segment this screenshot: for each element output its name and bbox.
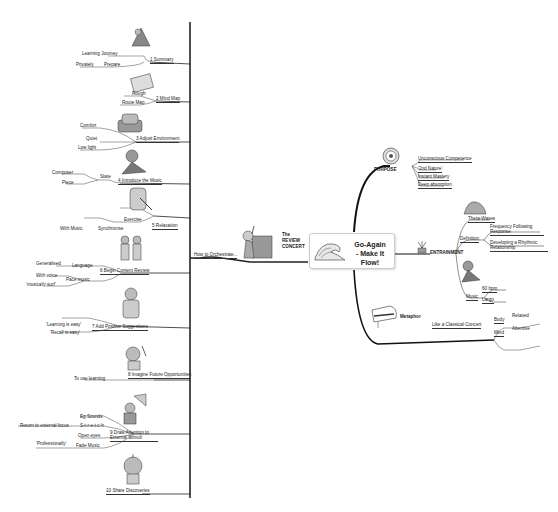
- musically-surf[interactable]: 'musically surf': [26, 282, 56, 287]
- dreaming-figure-icon: [120, 342, 150, 372]
- step-4-introduce-music[interactable]: 4 Introduce the Music: [118, 178, 162, 185]
- frequency-following-response[interactable]: Frequency Following Response: [490, 224, 544, 236]
- definition[interactable]: Definition: [460, 236, 479, 243]
- pace-music[interactable]: Pace music: [66, 277, 90, 282]
- return-to-external-focus[interactable]: Return to external focus: [20, 423, 69, 428]
- with-music[interactable]: With Music: [60, 226, 82, 231]
- composer[interactable]: Composer: [52, 170, 73, 175]
- review-concert-line1: The: [282, 232, 290, 237]
- music[interactable]: Music: [466, 294, 478, 301]
- conductor-icon: [238, 222, 280, 262]
- plant-icon: [414, 240, 430, 254]
- step-3-adjust-environment[interactable]: 3 Adjust Environment: [136, 136, 179, 143]
- mind[interactable]: Mind: [494, 330, 504, 337]
- professionally[interactable]: 'Professionally': [36, 441, 66, 446]
- privately[interactable]: Privately: [76, 62, 94, 67]
- like-classical-concert[interactable]: Like a Classical Concert: [432, 322, 481, 329]
- to-use-learning[interactable]: To use learning: [74, 376, 105, 381]
- waves-icon: [462, 198, 488, 216]
- armchair-icon: [114, 112, 146, 136]
- unconscious-competence[interactable]: Unconscious Competence: [418, 156, 472, 163]
- attentive[interactable]: Attentive: [512, 326, 530, 331]
- musician-icon: [118, 148, 152, 178]
- central-title-line2: - Make It Flow!: [356, 250, 384, 266]
- largo[interactable]: Largo: [482, 297, 494, 304]
- second-nature[interactable]: '2nd Nature': [418, 166, 442, 173]
- piano-icon: [370, 304, 400, 330]
- summary-icon: [128, 24, 154, 50]
- cheering-figure-icon: [116, 286, 146, 320]
- eg-sounds[interactable]: Eg Sounds: [80, 414, 102, 419]
- language[interactable]: Language: [72, 263, 92, 268]
- target-icon: [380, 146, 402, 166]
- low-light[interactable]: Low light: [78, 145, 96, 150]
- recall-is-easy[interactable]: 'Recall is easy': [50, 330, 80, 335]
- central-topic[interactable]: Go-Again- Make It Flow!: [309, 233, 395, 269]
- fade-music[interactable]: Fade Music: [76, 443, 100, 448]
- generalised[interactable]: Generalised: [36, 261, 61, 266]
- learning-journey[interactable]: Learning Journey: [82, 51, 118, 56]
- dancing-pair-icon: [116, 232, 146, 264]
- instant-mastery[interactable]: Instant Mastery: [418, 174, 449, 181]
- open-eyes[interactable]: Open eyes: [78, 433, 100, 438]
- wave-icon: [313, 238, 349, 264]
- step-7-add-positive-suggestions[interactable]: 7 Add Positive Suggestions: [92, 324, 148, 331]
- purpose-topic[interactable]: PURPOSE: [374, 167, 396, 172]
- step-1-summary[interactable]: 1 Summary: [150, 57, 174, 64]
- quiet[interactable]: Quiet: [86, 136, 97, 141]
- how-to-orchestrate-topic[interactable]: How to Orchestrate...: [194, 252, 237, 259]
- route-map[interactable]: Route Map: [122, 100, 144, 105]
- piece[interactable]: Piece: [62, 180, 74, 185]
- step-2-mind-map[interactable]: 2 Mind Map: [156, 96, 180, 103]
- megaphone-figure-icon: [118, 392, 150, 426]
- with-voice[interactable]: With voice: [36, 273, 57, 278]
- learning-is-easy[interactable]: 'Learning is easy': [46, 322, 81, 327]
- prepare[interactable]: Prepare: [104, 62, 120, 67]
- step-6-begin-content-review[interactable]: 6 Begin Content Review: [100, 268, 149, 275]
- step-10-share-discoveries[interactable]: 10 Share Discoveries: [106, 488, 150, 495]
- entrainment-topic[interactable]: ENTRAINMENT: [430, 250, 463, 255]
- theta-waves[interactable]: Theta-Waves: [468, 216, 495, 223]
- exercise[interactable]: Exercise: [124, 217, 142, 222]
- step-5-relaxation[interactable]: 5 Relaxation: [152, 223, 178, 230]
- review-concert-line3: CONCERT: [282, 244, 305, 249]
- review-concert-line2: REVIEW: [282, 238, 300, 243]
- stretch[interactable]: S-t-r-e-t-c-h: [80, 423, 104, 428]
- step-8-imagine-future[interactable]: 8 Imagine Future Opportunities: [128, 372, 191, 379]
- relaxing-figure-icon: [126, 184, 156, 214]
- synchronise[interactable]: Synchronise: [98, 226, 123, 231]
- sixty-bpm[interactable]: 60 bpm: [482, 286, 497, 293]
- deep-absorption[interactable]: Deep absorption: [418, 182, 452, 189]
- metaphor-topic[interactable]: Metaphor: [400, 314, 421, 319]
- relaxed[interactable]: Relaxed: [512, 313, 529, 318]
- comfort[interactable]: Comfort: [80, 123, 96, 128]
- central-title-line1: Go-Again: [354, 241, 386, 248]
- developing-rhythmic-relationship[interactable]: Developing a Rhythmic Relationship: [490, 240, 548, 252]
- step-9-draw-attention[interactable]: 9 Draw Attention to External Stimuli: [110, 430, 158, 442]
- elephant-icon: [118, 452, 148, 486]
- state[interactable]: State: [100, 174, 111, 179]
- body[interactable]: Body: [494, 317, 504, 324]
- rough[interactable]: Rough: [132, 91, 146, 96]
- violinist-icon: [458, 258, 484, 284]
